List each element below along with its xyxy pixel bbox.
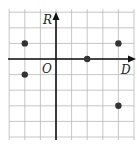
y-axis-arrow-icon [53,12,60,20]
data-point [84,56,90,62]
origin-label: O [42,62,52,76]
coordinate-plane: R O D [0,0,137,149]
data-point [22,71,28,77]
x-axis-arrow-icon [128,56,136,63]
x-axis-label: D [120,63,131,77]
data-point [115,103,121,109]
y-axis-label: R [42,13,52,27]
data-point [115,40,121,46]
data-point [22,40,28,46]
